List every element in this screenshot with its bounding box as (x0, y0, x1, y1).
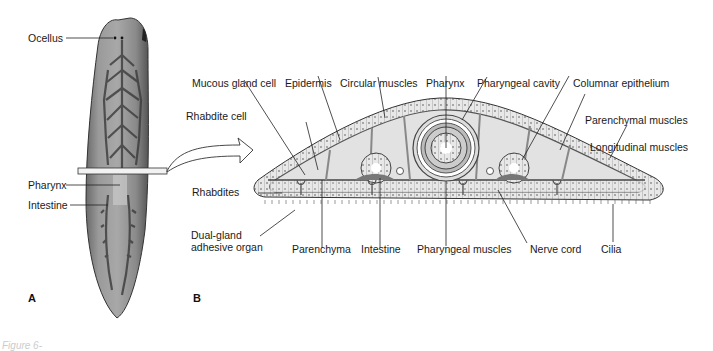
label-pharyngeal-muscles: Pharyngeal muscles (417, 243, 512, 255)
label-nerve-cord: Nerve cord (530, 243, 581, 255)
label-pharynx-a: Pharynx (28, 179, 67, 191)
label-pharyngeal-cavity: Pharyngeal cavity (477, 77, 560, 89)
label-intestine-a: Intestine (28, 199, 68, 211)
label-epidermis: Epidermis (285, 77, 332, 89)
label-mucous-gland-cell: Mucous gland cell (192, 77, 276, 89)
label-intestine-b: Intestine (361, 243, 401, 255)
label-rhabdites: Rhabdites (192, 186, 239, 198)
label-cilia: Cilia (601, 243, 621, 255)
label-adhesive-organ: adhesive organ (191, 241, 263, 253)
label-ocellus: Ocellus (28, 32, 63, 44)
figure-canvas (0, 0, 713, 351)
label-longitudinal-muscles: Longitudinal muscles (590, 141, 688, 153)
section-plane-marker (78, 168, 167, 174)
label-circular-muscles: Circular muscles (340, 77, 418, 89)
label-dual-gland: Dual-gland (191, 229, 242, 241)
label-rhabdite-cell: Rhabdite cell (186, 110, 247, 122)
label-columnar-epithelium: Columnar epithelium (573, 77, 669, 89)
figure-caption-fragment: Figure 6- (2, 340, 42, 351)
panel-letter-a: A (28, 292, 36, 304)
label-parenchymal-muscles: Parenchymal muscles (585, 114, 688, 126)
panel-letter-b: B (193, 292, 201, 304)
label-parenchyma: Parenchyma (292, 243, 351, 255)
label-pharynx-b: Pharynx (426, 77, 465, 89)
arrow-icon (167, 138, 253, 172)
